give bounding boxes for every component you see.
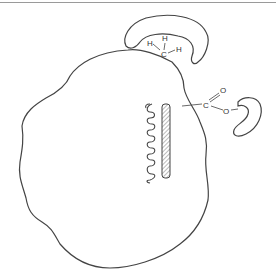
right-binding-pocket	[234, 98, 262, 136]
beta-strand	[162, 104, 170, 178]
methyl-carbon: C	[161, 50, 167, 59]
carboxyl-carbon: C	[203, 101, 209, 110]
diagram-canvas: H H H C C O O	[0, 0, 276, 278]
methyl-h-top: H	[162, 34, 168, 43]
protein-outline	[19, 50, 208, 268]
methyl-group: H H H C	[147, 34, 182, 59]
negative-charge	[231, 109, 238, 110]
alpha-helix	[146, 104, 155, 183]
methyl-h-left: H	[147, 39, 153, 48]
carboxylate-group: C O O	[182, 86, 238, 116]
carboxyl-oxygen-single: O	[223, 107, 229, 116]
carboxyl-oxygen-double: O	[220, 86, 226, 95]
methyl-h-right: H	[176, 45, 182, 54]
